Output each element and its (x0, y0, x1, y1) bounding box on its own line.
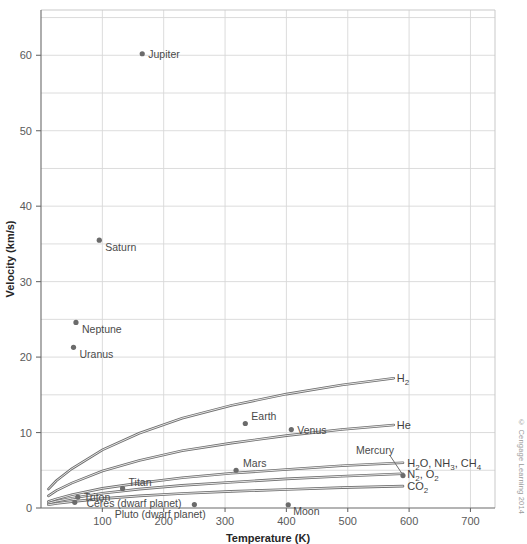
curve-labels: H2HeH2O, NH3, CH4N2, O2CO2 (397, 372, 482, 495)
x-tick-600: 600 (400, 515, 418, 527)
label-moon: Moon (293, 505, 319, 517)
label-mars: Mars (243, 457, 266, 469)
x-tick-200: 200 (155, 515, 173, 527)
data-point-titan (120, 486, 125, 491)
label-earth: Earth (251, 410, 276, 422)
curve-label-h2: H2 (397, 372, 410, 387)
y-tick-30: 30 (20, 276, 32, 288)
x-tick-400: 400 (277, 515, 295, 527)
data-point-jupiter (140, 51, 145, 56)
label-ceres-dwarf-planet-: Ceres (dwarf planet) (86, 497, 181, 509)
x-tick-700: 700 (461, 515, 479, 527)
data-point-triton (75, 494, 80, 499)
data-point-mars (233, 468, 238, 473)
data-point-earth (243, 421, 248, 426)
label-saturn: Saturn (105, 241, 136, 253)
x-axis-title: Temperature (K) (226, 532, 310, 544)
plot-canvas: JupiterSaturnNeptuneUranusEarthVenusMars… (0, 0, 527, 544)
curve-label-he: He (397, 419, 411, 431)
data-point-pluto-dwarf-planet- (72, 500, 77, 505)
body-data-points (71, 51, 406, 507)
data-point-saturn (97, 238, 102, 243)
curve-he (48, 425, 393, 496)
y-tick-50: 50 (20, 125, 32, 137)
data-point-moon (286, 502, 291, 507)
y-tick-0: 0 (26, 502, 32, 514)
label-mercury: Mercury (356, 444, 395, 456)
plot-frame (41, 10, 495, 508)
x-tick-300: 300 (216, 515, 234, 527)
axis-ticks: 1002003004005006007000102030405060 (20, 49, 480, 527)
y-tick-60: 60 (20, 49, 32, 61)
y-tick-10: 10 (20, 427, 32, 439)
data-point-neptune (73, 320, 78, 325)
x-tick-500: 500 (339, 515, 357, 527)
label-titan: Titan (129, 476, 152, 488)
x-tick-100: 100 (93, 515, 111, 527)
label-jupiter: Jupiter (148, 48, 180, 60)
data-point-ceres-dwarf-planet- (192, 502, 197, 507)
y-tick-40: 40 (20, 200, 32, 212)
escape-velocity-chart: JupiterSaturnNeptuneUranusEarthVenusMars… (0, 0, 527, 544)
copyright-credit: © Cengage Learning 2014 (517, 418, 526, 514)
y-axis-title: Velocity (km/s) (4, 220, 16, 297)
mercury-leader-line (390, 456, 402, 474)
curve-label-co2: CO2 (407, 480, 429, 495)
escape-velocity-curves (48, 378, 403, 505)
data-point-venus (289, 427, 294, 432)
y-tick-20: 20 (20, 351, 32, 363)
data-point-uranus (71, 345, 76, 350)
label-uranus: Uranus (80, 348, 114, 360)
label-neptune: Neptune (82, 323, 122, 335)
grid-lines (41, 10, 495, 508)
data-point-mercury (400, 473, 405, 478)
label-venus: Venus (297, 424, 326, 436)
